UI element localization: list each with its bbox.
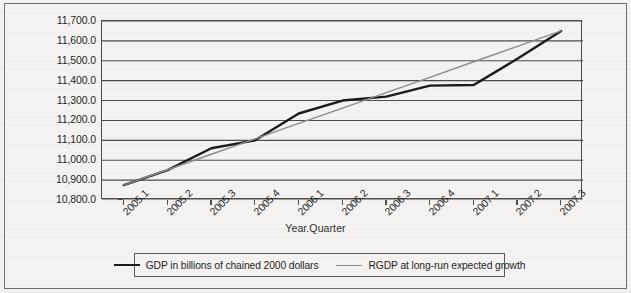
y-tick-label: 11,400.0 bbox=[26, 75, 96, 86]
y-tick-label: 11,500.0 bbox=[26, 55, 96, 66]
y-tick-label: 11,100.0 bbox=[26, 134, 96, 145]
gridlines bbox=[102, 21, 583, 200]
y-tick-label: 11,700.0 bbox=[26, 15, 96, 26]
data-series bbox=[124, 31, 561, 185]
y-tick-label: 11,300.0 bbox=[26, 95, 96, 106]
y-tick-label: 11,000.0 bbox=[26, 154, 96, 165]
legend-label-gdp: GDP in billions of chained 2000 dollars bbox=[146, 260, 319, 271]
y-tick-label: 11,200.0 bbox=[26, 114, 96, 125]
chart-legend: GDP in billions of chained 2000 dollars … bbox=[134, 253, 505, 277]
chart-page: RGDP (billions, 2000) 11,700.011,600.011… bbox=[0, 0, 631, 293]
chart-svg bbox=[102, 21, 583, 200]
x-axis-title: Year.Quarter bbox=[0, 222, 631, 234]
y-axis-labels: 11,700.011,600.011,500.011,400.011,300.0… bbox=[22, 20, 96, 199]
y-tick-label: 10,900.0 bbox=[26, 174, 96, 185]
legend-line-gray-icon bbox=[336, 265, 362, 266]
legend-item-gdp: GDP in billions of chained 2000 dollars bbox=[114, 260, 319, 271]
y-tick-label: 10,800.0 bbox=[26, 194, 96, 205]
legend-line-dark-icon bbox=[114, 264, 140, 266]
legend-label-trend: RGDP at long-run expected growth bbox=[368, 260, 525, 271]
plot-area bbox=[101, 20, 582, 199]
y-tick-label: 11,600.0 bbox=[26, 35, 96, 46]
legend-item-trend: RGDP at long-run expected growth bbox=[336, 260, 525, 271]
series-line bbox=[124, 31, 561, 185]
